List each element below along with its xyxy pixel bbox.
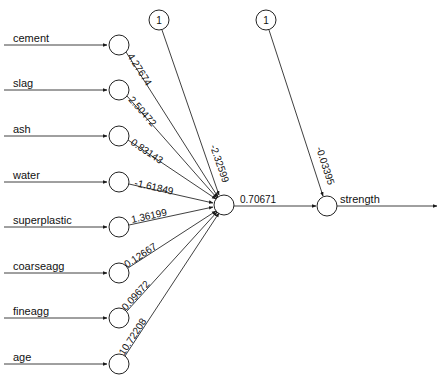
weight-coarseagg: 0.12667 (122, 241, 159, 270)
edge-bias2-output (269, 30, 323, 196)
bias-node-hidden-label: 1 (156, 15, 162, 26)
input-node-slag (109, 80, 129, 100)
weight-cement: 4.27674 (125, 51, 154, 88)
input-label-ash: ash (13, 123, 31, 135)
input-node-cement (109, 35, 129, 55)
edge-bias1-hidden (162, 30, 219, 195)
weight-bias-hidden: -2.32599 (208, 143, 231, 184)
output-node (317, 196, 337, 216)
input-label-slag: slag (13, 77, 33, 89)
input-node-ash (109, 126, 129, 146)
weight-water: -1.61849 (134, 177, 175, 197)
input-nodes (109, 35, 129, 374)
weight-slag: 2.50472 (126, 94, 158, 129)
hidden-node (214, 195, 234, 215)
input-node-superplastic (109, 217, 129, 237)
input-labels: cement slag ash water superplastic coars… (12, 32, 72, 363)
input-label-cement: cement (13, 32, 49, 44)
input-label-age: age (13, 351, 31, 363)
weight-fineagg: 0.09672 (119, 278, 152, 312)
input-label-coarseagg: coarseagg (13, 260, 64, 272)
input-node-age (109, 354, 129, 374)
weight-superplastic: 1.36199 (130, 207, 168, 225)
bias-node-output-label: 1 (263, 15, 269, 26)
input-label-superplastic: superplastic (13, 214, 72, 226)
weight-ash: 0.83143 (129, 137, 166, 166)
input-node-water (109, 172, 129, 192)
input-label-water: water (12, 169, 40, 181)
input-label-fineagg: fineagg (13, 305, 49, 317)
weight-hidden-output: 0.70671 (240, 194, 277, 205)
output-label-strength: strength (340, 193, 380, 205)
neural-network-diagram: cement slag ash water superplastic coars… (0, 0, 444, 382)
